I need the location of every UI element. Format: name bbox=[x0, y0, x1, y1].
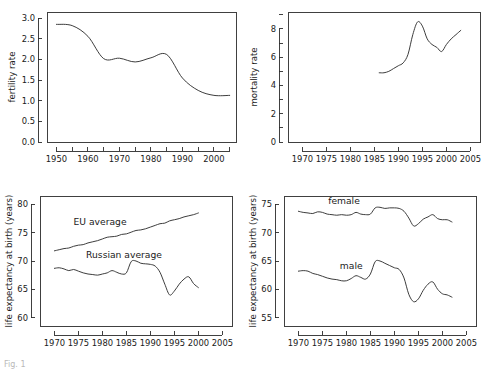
x-axis-tick-label: 1970 bbox=[288, 338, 309, 348]
x-axis-tick-label: 1990 bbox=[388, 154, 409, 164]
data-line-male bbox=[298, 260, 452, 302]
x-axis-tick-label: 1985 bbox=[360, 338, 381, 348]
fertility-rate-chart: 0.00.51.01.52.02.53.01950196019701980199… bbox=[0, 0, 244, 186]
figure-caption: Fig. 1 bbox=[0, 358, 488, 371]
life-expectancy-by-sex-chart: 5560657075197019751980198519901995200020… bbox=[244, 186, 488, 364]
y-axis-tick-label: 65 bbox=[261, 256, 272, 266]
x-axis-tick-label: 1980 bbox=[140, 154, 161, 164]
x-axis-tick-label: 1950 bbox=[46, 154, 67, 164]
chart-panel-mortality: 0246819701975198019851990199520002005mor… bbox=[244, 0, 488, 186]
x-axis-tick-label: 2000 bbox=[432, 338, 453, 348]
y-axis-tick-label: 0.5 bbox=[22, 116, 35, 126]
y-axis-title: life expectancy at birth (years) bbox=[4, 195, 14, 328]
series-label-eu-average: EU average bbox=[73, 216, 126, 227]
y-axis-tick-label: 65 bbox=[17, 284, 28, 294]
y-axis-tick-label: 1.0 bbox=[22, 96, 35, 106]
figure-caption-strip: Fig. 1 bbox=[0, 358, 488, 371]
chart-panel-fertility: 0.00.51.01.52.02.53.01950196019701980199… bbox=[0, 0, 244, 186]
y-axis-tick-label: 2 bbox=[271, 109, 276, 119]
y-axis-tick-label: 6 bbox=[271, 52, 276, 62]
x-axis-tick-label: 1975 bbox=[316, 154, 337, 164]
figure-container: 0.00.51.01.52.02.53.01950196019701980199… bbox=[0, 0, 488, 371]
y-axis-tick-label: 60 bbox=[261, 284, 272, 294]
life-expectancy-comparison-chart: 6065707580197019751980198519901995200020… bbox=[0, 186, 244, 364]
series-label-female: female bbox=[328, 195, 360, 206]
y-axis-tick-label: 75 bbox=[261, 199, 272, 209]
y-axis-title: mortality rate bbox=[249, 47, 259, 106]
plot-frame bbox=[47, 12, 236, 142]
chart-panel-life-expectancy-by-sex: 5560657075197019751980198519901995200020… bbox=[244, 186, 488, 364]
x-axis-tick-label: 1970 bbox=[109, 154, 130, 164]
chart-panel-life-expectancy-comparison: 6065707580197019751980198519901995200020… bbox=[0, 186, 244, 364]
x-axis-tick-label: 2000 bbox=[436, 154, 457, 164]
y-axis-tick-label: 0.0 bbox=[22, 137, 35, 147]
x-axis-tick-label: 1990 bbox=[140, 338, 161, 348]
y-axis-tick-label: 8 bbox=[271, 24, 276, 34]
y-axis-tick-label: 70 bbox=[261, 228, 272, 238]
x-axis-tick-label: 1990 bbox=[384, 338, 405, 348]
plot-frame bbox=[288, 12, 480, 142]
data-line-mortality-rate bbox=[379, 22, 461, 73]
x-axis-tick-label: 1960 bbox=[77, 154, 98, 164]
y-axis-title: fertility rate bbox=[7, 51, 17, 102]
y-axis-tick-label: 1.5 bbox=[22, 75, 35, 85]
data-line-fertility-rate bbox=[56, 24, 229, 95]
x-axis-tick-label: 1970 bbox=[292, 154, 313, 164]
y-axis-tick-label: 55 bbox=[261, 313, 272, 323]
x-axis-tick-label: 1995 bbox=[164, 338, 185, 348]
y-axis-tick-label: 75 bbox=[17, 228, 28, 238]
x-axis-tick-label: 2005 bbox=[456, 338, 477, 348]
x-axis-tick-label: 1980 bbox=[340, 154, 361, 164]
y-axis-tick-label: 70 bbox=[17, 256, 28, 266]
x-axis-tick-label: 2000 bbox=[203, 154, 224, 164]
data-line-female bbox=[298, 207, 452, 226]
x-axis-tick-label: 1985 bbox=[116, 338, 137, 348]
x-axis-tick-label: 1980 bbox=[92, 338, 113, 348]
y-axis-title: life expectancy at birth (years) bbox=[248, 195, 258, 328]
x-axis-tick-label: 2005 bbox=[460, 154, 481, 164]
x-axis-tick-label: 1975 bbox=[68, 338, 89, 348]
x-axis-tick-label: 1995 bbox=[412, 154, 433, 164]
y-axis-tick-label: 4 bbox=[271, 80, 276, 90]
x-axis-tick-label: 2000 bbox=[188, 338, 209, 348]
y-axis-tick-label: 3.0 bbox=[22, 13, 35, 23]
y-axis-tick-label: 60 bbox=[17, 313, 28, 323]
y-axis-tick-label: 2.5 bbox=[22, 34, 35, 44]
x-axis-tick-label: 1970 bbox=[44, 338, 65, 348]
x-axis-tick-label: 1975 bbox=[312, 338, 333, 348]
y-axis-tick-label: 80 bbox=[17, 199, 28, 209]
data-line-russian-average bbox=[54, 260, 198, 295]
mortality-rate-chart: 0246819701975198019851990199520002005mor… bbox=[244, 0, 488, 186]
x-axis-tick-label: 1990 bbox=[172, 154, 193, 164]
series-label-russian-average: Russian average bbox=[86, 249, 162, 260]
x-axis-tick-label: 1995 bbox=[408, 338, 429, 348]
y-axis-tick-label: 0 bbox=[271, 137, 276, 147]
y-axis-tick-label: 2.0 bbox=[22, 54, 35, 64]
x-axis-tick-label: 1985 bbox=[364, 154, 385, 164]
x-axis-tick-label: 2005 bbox=[212, 338, 233, 348]
x-axis-tick-label: 1980 bbox=[336, 338, 357, 348]
series-label-male: male bbox=[340, 260, 363, 271]
